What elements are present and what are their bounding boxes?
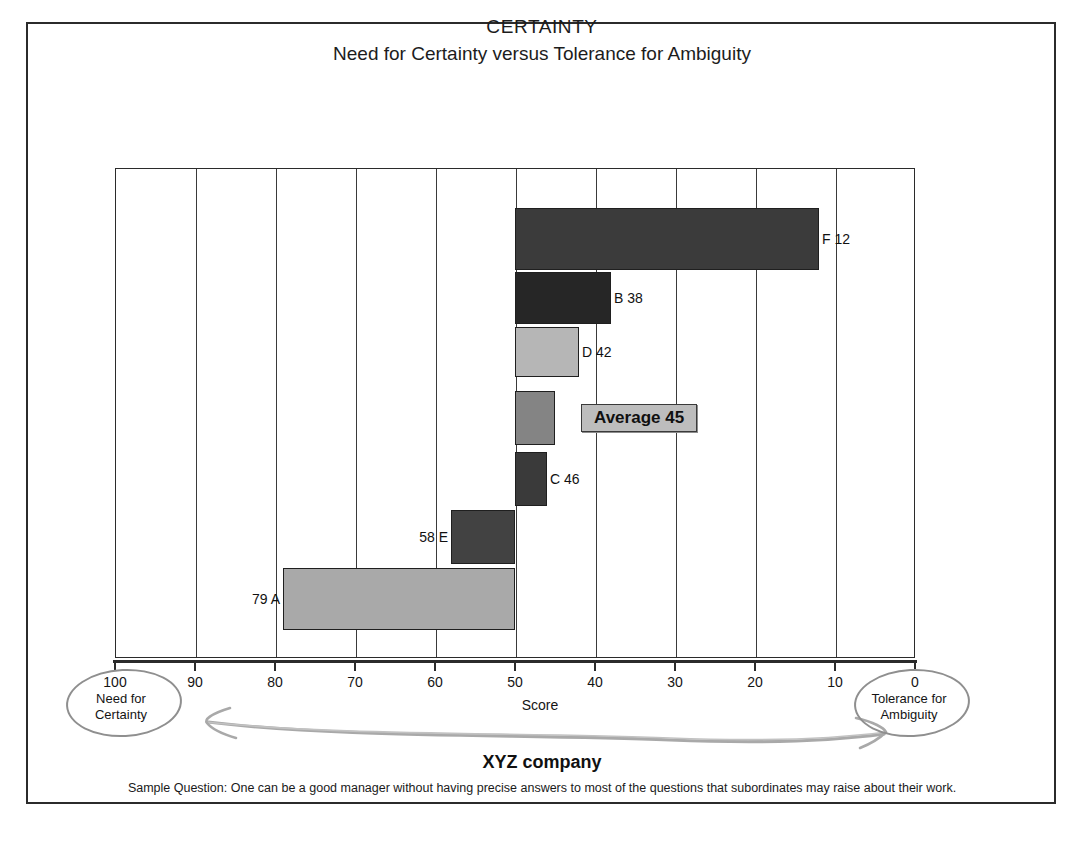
bar-label-b: B 38 (614, 291, 643, 305)
x-tick-label-70: 70 (330, 674, 380, 690)
chart-subtitle: Need for Certainty versus Tolerance for … (0, 40, 1084, 68)
company-label: XYZ company (0, 752, 1084, 773)
span-arrow-annotation (190, 700, 900, 752)
x-tick-label-90: 90 (170, 674, 220, 690)
gridline (196, 169, 197, 657)
x-tick-mark (514, 660, 516, 671)
x-tick-mark (834, 660, 836, 671)
bar-e (451, 510, 515, 564)
left-endpoint-note: Need forCertainty (56, 691, 186, 723)
x-tick-label-50: 50 (490, 674, 540, 690)
x-tick-label-100: 100 (90, 674, 140, 690)
bar-label-d: D 42 (582, 345, 612, 359)
bar-a (283, 568, 515, 630)
page-title: CERTAINTY (0, 14, 1084, 40)
x-tick-mark (674, 660, 676, 671)
average-callout: Average 45 (581, 404, 697, 432)
right-endpoint-note-line2: Ambiguity (844, 707, 974, 723)
x-tick-mark (194, 660, 196, 671)
bar-d (515, 327, 579, 377)
x-tick-label-0: 0 (890, 674, 940, 690)
left-endpoint-note-line2: Certainty (56, 707, 186, 723)
x-tick-mark (274, 660, 276, 671)
bar-label-a: 79 A (235, 592, 280, 606)
x-tick-label-30: 30 (650, 674, 700, 690)
bar-average (515, 391, 555, 445)
x-tick-label-20: 20 (730, 674, 780, 690)
x-tick-mark (754, 660, 756, 671)
sample-question-footnote: Sample Question: One can be a good manag… (0, 781, 1084, 795)
right-endpoint-note: Tolerance forAmbiguity (844, 691, 974, 723)
bar-label-f: F 12 (822, 232, 850, 246)
right-endpoint-note-line1: Tolerance for (844, 691, 974, 707)
x-tick-label-80: 80 (250, 674, 300, 690)
bar-f (515, 208, 819, 270)
left-endpoint-note-line1: Need for (56, 691, 186, 707)
bar-b (515, 272, 611, 324)
gridline (276, 169, 277, 657)
bar-label-c: C 46 (550, 472, 580, 486)
x-tick-mark (434, 660, 436, 671)
bar-c (515, 452, 547, 506)
x-tick-mark (914, 660, 916, 671)
x-tick-mark (354, 660, 356, 671)
x-tick-label-60: 60 (410, 674, 460, 690)
x-tick-label-40: 40 (570, 674, 620, 690)
bar-label-e: 58 E (403, 530, 448, 544)
title-block: CERTAINTY Need for Certainty versus Tole… (0, 14, 1084, 68)
x-tick-mark (594, 660, 596, 671)
x-tick-mark (114, 660, 116, 671)
x-tick-label-10: 10 (810, 674, 860, 690)
